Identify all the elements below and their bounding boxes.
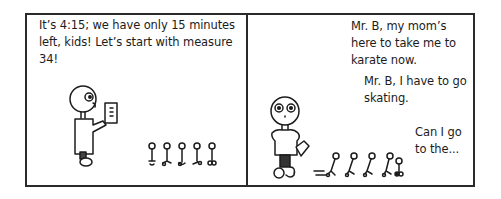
caption-student-skating: Mr. B, I have to go skating.: [364, 73, 469, 107]
caption-student-can-i-go: Can I go to the...: [415, 124, 473, 158]
students-row-icon: [146, 141, 221, 171]
comic-panel-2: Mr. B, my mom’s here to take me to karat…: [248, 13, 475, 187]
comic-panel-1: It’s 4:15; we have only 15 minutes left,…: [25, 13, 247, 187]
caption-student-karate: Mr. B, my mom’s here to take me to karat…: [351, 18, 471, 69]
caption-teacher: It’s 4:15; we have only 15 minutes left,…: [39, 17, 244, 68]
teacher-figure-icon: [55, 81, 135, 171]
fleeing-students-icon: [314, 151, 404, 181]
teacher-front-figure-icon: [260, 95, 320, 185]
